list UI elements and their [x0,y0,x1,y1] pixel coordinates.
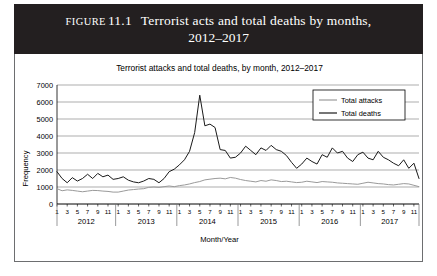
y-axis-tick-labels: 01000200030004000500060007000 [37,81,53,209]
x-month-tick-label: 5 [320,208,324,215]
x-year-label: 2015 [260,217,277,226]
x-year-label: 2012 [78,217,95,226]
figure-body: Terrorist attacks and total deaths, by m… [14,54,423,262]
figure-label-word: Figure [66,16,106,27]
x-month-tick-label: 5 [137,208,141,215]
x-month-tick-label: 9 [157,208,161,215]
x-month-tick-label: 3 [310,208,314,215]
x-month-tick-label: 1 [361,208,365,215]
x-year-label: 2017 [381,217,398,226]
x-month-tick-label: 9 [96,208,100,215]
x-month-tick-label: 5 [76,208,80,215]
legend-label-1[interactable]: Total deaths [341,109,381,118]
x-year-label: 2016 [321,217,338,226]
x-month-tick-label: 7 [269,208,273,215]
x-month-tick-label: 7 [331,208,335,215]
y-tick-label: 0 [49,200,53,209]
x-month-tick-label: 3 [249,208,253,215]
x-month-tick-label: 1 [116,208,120,215]
figure-page: Figure11.1Terrorist acts and total death… [0,0,437,276]
y-tick-label: 4000 [37,132,53,141]
x-year-label: 2014 [199,217,216,226]
x-month-tick-label: 11 [227,208,234,215]
y-tick-label: 3000 [37,149,53,158]
legend-label-0[interactable]: Total attacks [341,96,382,105]
x-month-tick-label: 11 [166,208,173,215]
x-month-tick-label: 5 [198,208,202,215]
x-year-label: 2013 [138,217,155,226]
chart-plot-area: Frequency Month/Year 0100020003000400050… [15,54,424,262]
x-month-tick-label: 9 [218,208,222,215]
x-month-tick-label: 11 [411,208,418,215]
y-tick-label: 1000 [37,183,53,192]
x-month-tick-label: 11 [349,208,356,215]
x-month-tick-label: 9 [402,208,406,215]
figure-caption-line-1: Figure11.1Terrorist acts and total death… [66,13,372,29]
y-tick-label: 5000 [37,115,53,124]
figure-title-line-1: Terrorist acts and total deaths by month… [141,13,372,28]
x-month-tick-label: 3 [127,208,131,215]
y-tick-label: 2000 [37,166,53,175]
x-month-tick-label: 7 [147,208,151,215]
x-month-tick-label: 3 [371,208,375,215]
figure-caption-banner: Figure11.1Terrorist acts and total death… [14,4,423,54]
figure-title-line-2: 2012–2017 [188,30,249,46]
x-month-tick-label: 3 [65,208,69,215]
x-month-tick-label: 7 [208,208,212,215]
x-month-tick-label: 1 [300,208,304,215]
x-month-tick-label: 3 [188,208,192,215]
series-line-total-attacks [57,177,419,192]
x-month-tick-label: 5 [259,208,263,215]
y-tick-label: 6000 [37,98,53,107]
x-month-tick-label: 11 [105,208,112,215]
x-month-tick-label: 11 [288,208,295,215]
x-month-tick-label: 1 [178,208,182,215]
chart-legend[interactable]: Total attacksTotal deaths [313,90,405,120]
x-month-tick-label: 7 [392,208,396,215]
x-month-tick-label: 7 [86,208,90,215]
x-month-tick-label: 9 [341,208,345,215]
line-chart-svg: 01000200030004000500060007000 1357911135… [15,54,424,262]
x-month-tick-label: 5 [382,208,386,215]
x-month-tick-label: 1 [239,208,243,215]
figure-number: 11.1 [108,13,132,28]
x-month-tick-label: 9 [280,208,284,215]
y-tick-label: 7000 [37,81,53,90]
